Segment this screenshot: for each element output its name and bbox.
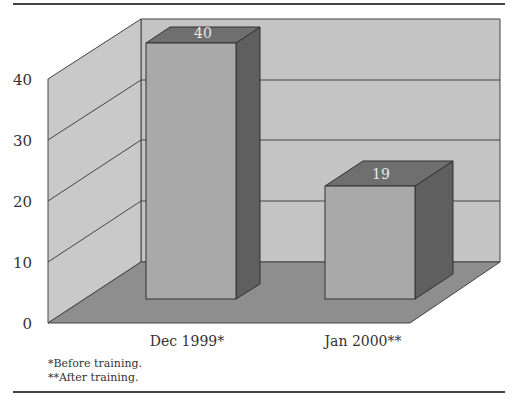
x-category-label: Jan 2000** bbox=[322, 333, 401, 349]
bar-jan-2000: 19 bbox=[325, 161, 453, 299]
bar-value-label: 19 bbox=[372, 166, 390, 182]
y-tick: 30 bbox=[13, 132, 32, 150]
footnote-after: **After training. bbox=[48, 371, 139, 384]
bar-value-label: 40 bbox=[194, 25, 212, 41]
bottom-rule bbox=[13, 391, 505, 393]
bar-chart-3d: 40 19 40 30 20 10 0 Dec 1999* Jan 2000** bbox=[0, 0, 518, 403]
y-tick: 20 bbox=[13, 193, 32, 211]
bar-dec-1999: 40 bbox=[146, 25, 260, 299]
y-axis-ticks: 40 30 20 10 0 bbox=[13, 71, 32, 333]
y-tick: 10 bbox=[13, 254, 32, 272]
y-tick: 0 bbox=[22, 315, 32, 333]
footnote-before: *Before training. bbox=[48, 357, 142, 370]
y-tick: 40 bbox=[13, 71, 32, 89]
x-category-label: Dec 1999* bbox=[150, 333, 224, 349]
